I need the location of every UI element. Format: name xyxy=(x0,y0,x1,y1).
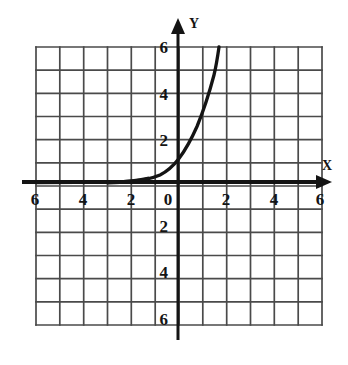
y-tick-label-pos4: 4 xyxy=(160,85,169,104)
coordinate-plane-svg: 6 4 2 0 2 4 6 6 4 2 2 4 6 Y X xyxy=(0,0,348,365)
y-tick-label-pos6: 6 xyxy=(160,38,169,57)
y-axis-arrow-icon xyxy=(171,18,185,34)
axes-group xyxy=(22,18,332,340)
x-tick-label-neg2: 2 xyxy=(127,190,136,209)
graph-figure: 6 4 2 0 2 4 6 6 4 2 2 4 6 Y X xyxy=(0,0,348,365)
origin-label: 0 xyxy=(164,190,173,209)
y-tick-label-pos2: 2 xyxy=(160,131,169,150)
y-tick-label-neg6: 6 xyxy=(160,310,169,329)
y-tick-label-neg4: 4 xyxy=(160,263,169,282)
y-tick-label-neg2: 2 xyxy=(160,217,169,236)
x-axis-label: X xyxy=(322,158,332,173)
x-tick-label-neg6: 6 xyxy=(31,190,40,209)
x-axis-arrow-icon xyxy=(316,175,332,189)
x-tick-label-pos6: 6 xyxy=(316,190,325,209)
x-tick-label-neg4: 4 xyxy=(79,190,88,209)
x-tick-label-pos4: 4 xyxy=(270,190,279,209)
x-tick-label-pos2: 2 xyxy=(222,190,231,209)
y-axis-label: Y xyxy=(189,16,199,31)
